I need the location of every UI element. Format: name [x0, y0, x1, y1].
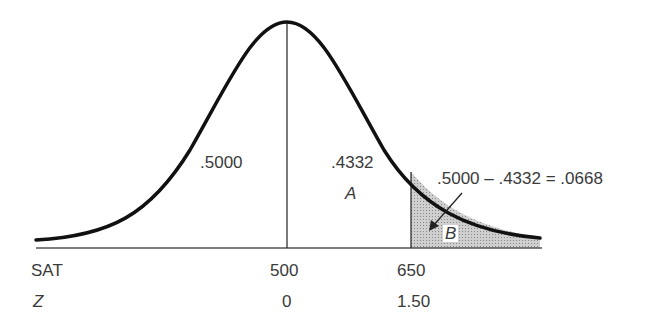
- z-row-label: Z: [33, 293, 43, 310]
- area-b-label: B: [443, 225, 458, 242]
- sat-cutoff-value: 650: [397, 262, 425, 279]
- z-mean-value: 0: [282, 293, 291, 310]
- left-area-label: .5000: [200, 154, 243, 171]
- area-a-label: A: [345, 185, 356, 202]
- tail-equation-label: .5000 – .4332 = .0668: [437, 170, 603, 187]
- sat-mean-value: 500: [270, 262, 298, 279]
- middle-area-label: .4332: [331, 154, 374, 171]
- sat-row-label: SAT: [31, 262, 63, 279]
- normal-curve: [36, 22, 540, 240]
- z-cutoff-value: 1.50: [397, 293, 430, 310]
